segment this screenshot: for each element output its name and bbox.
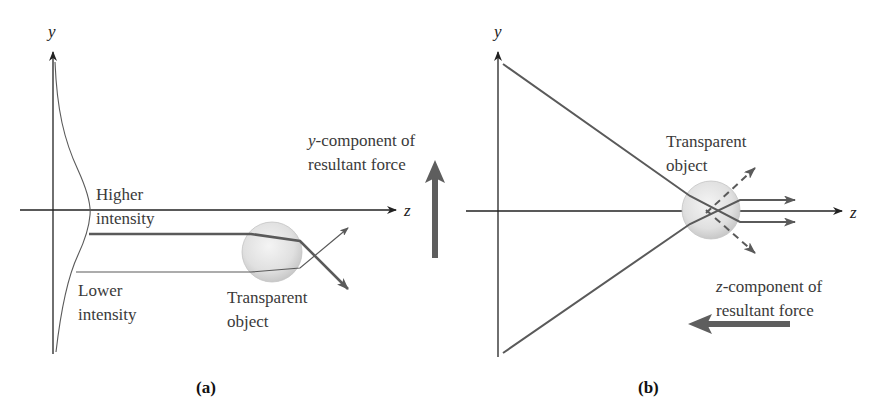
panel-b: y z Transparent object z-component of re… <box>466 22 857 397</box>
transparent-object-label-b-line2: object <box>666 156 708 175</box>
transparent-object-sphere-b <box>682 181 740 239</box>
z-axis-label-b: z <box>849 203 857 222</box>
y-force-text: -component of <box>316 131 416 150</box>
caption-a: (a) <box>196 378 216 397</box>
panel-a: y z Higher intensity Lower intensity Tra… <box>20 22 445 397</box>
z-axis-label-a: z <box>403 201 411 220</box>
z-force-text: -component of <box>723 277 823 296</box>
y-force-arrow-icon <box>425 160 445 258</box>
z-force-label-line2: resultant force <box>716 301 814 320</box>
upper-converging-ray <box>503 64 795 222</box>
z-force-label-line1: z-component of <box>715 277 823 296</box>
transparent-object-sphere-a <box>242 222 302 282</box>
optical-trap-diagram: y z Higher intensity Lower intensity Tra… <box>0 0 870 411</box>
lower-intensity-label-line2: intensity <box>78 305 137 324</box>
lower-intensity-label-line1: Lower <box>78 281 123 300</box>
high-intensity-ray <box>89 234 348 289</box>
y-axis-label-b: y <box>492 22 502 41</box>
higher-intensity-label-line2: intensity <box>96 209 155 228</box>
caption-b: (b) <box>638 378 659 397</box>
y-force-var: y <box>306 131 316 150</box>
higher-intensity-label-line1: Higher <box>96 185 144 204</box>
transparent-object-label-a-line2: object <box>227 312 269 331</box>
transparent-object-label-b-line1: Transparent <box>666 132 747 151</box>
y-axis-label-a: y <box>46 22 56 41</box>
y-force-label-line1: y-component of <box>306 131 415 150</box>
y-force-label-line2: resultant force <box>308 155 406 174</box>
transparent-object-label-a-line1: Transparent <box>227 288 308 307</box>
